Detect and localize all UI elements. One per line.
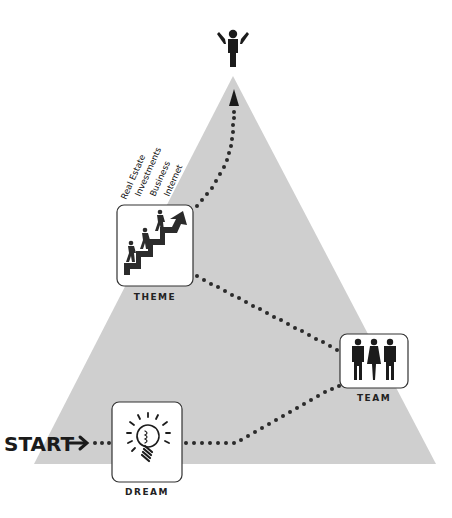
dream-label: DREAM bbox=[125, 487, 169, 497]
success-pyramid-diagram: START THEME Real Estate Investments Busi… bbox=[0, 0, 452, 518]
dream-step: DREAM bbox=[112, 402, 182, 497]
pyramid-shape bbox=[34, 76, 436, 464]
victory-person-icon bbox=[217, 30, 249, 67]
theme-label: THEME bbox=[134, 292, 176, 302]
start-label: START bbox=[4, 432, 74, 456]
team-label: TEAM bbox=[357, 393, 391, 403]
path-start-to-dream bbox=[93, 441, 111, 445]
